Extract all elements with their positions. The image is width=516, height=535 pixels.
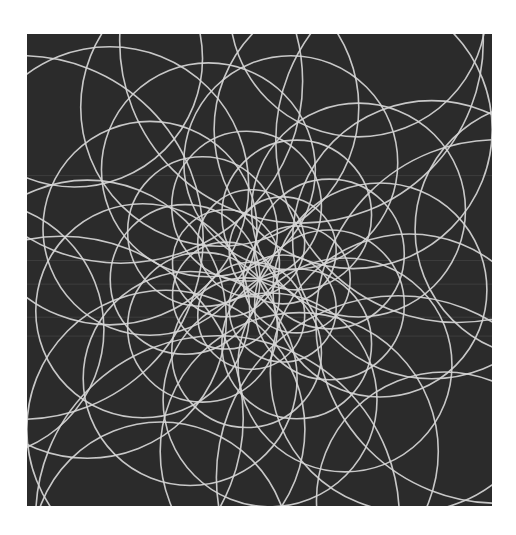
artwork-frame bbox=[0, 0, 516, 535]
circle-ring bbox=[27, 56, 203, 420]
circle-ring bbox=[128, 252, 278, 402]
circle-ring bbox=[160, 313, 438, 506]
circle-pattern bbox=[27, 34, 492, 506]
circle-ring bbox=[316, 372, 492, 506]
circle-ring bbox=[81, 34, 359, 246]
circle-ring bbox=[276, 34, 492, 323]
artwork-canvas bbox=[27, 34, 492, 506]
circle-ring bbox=[27, 34, 203, 187]
ring-group bbox=[27, 34, 492, 506]
